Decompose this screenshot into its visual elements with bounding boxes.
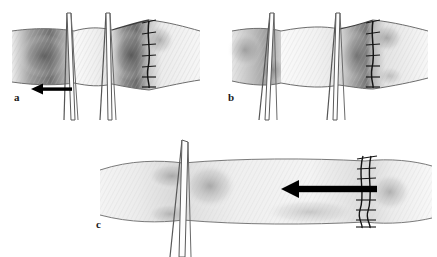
panel-b-artwork: [215, 0, 437, 130]
tissue-segment-proximal: [227, 28, 287, 85]
tissue-segment-middle: [182, 159, 365, 226]
panel-a-label: a: [14, 92, 20, 103]
panel-a: a: [0, 0, 215, 130]
panel-b: b: [215, 0, 437, 130]
panel-c-artwork: [60, 130, 437, 257]
panel-c: c: [60, 130, 437, 257]
surgical-figure: a: [0, 0, 437, 257]
tissue-segment-cuff: [338, 20, 376, 89]
panel-a-artwork: [0, 0, 215, 130]
panel-b-label: b: [228, 92, 234, 103]
tissue-segment-cuff: [110, 20, 152, 90]
panel-c-label: c: [96, 219, 101, 230]
